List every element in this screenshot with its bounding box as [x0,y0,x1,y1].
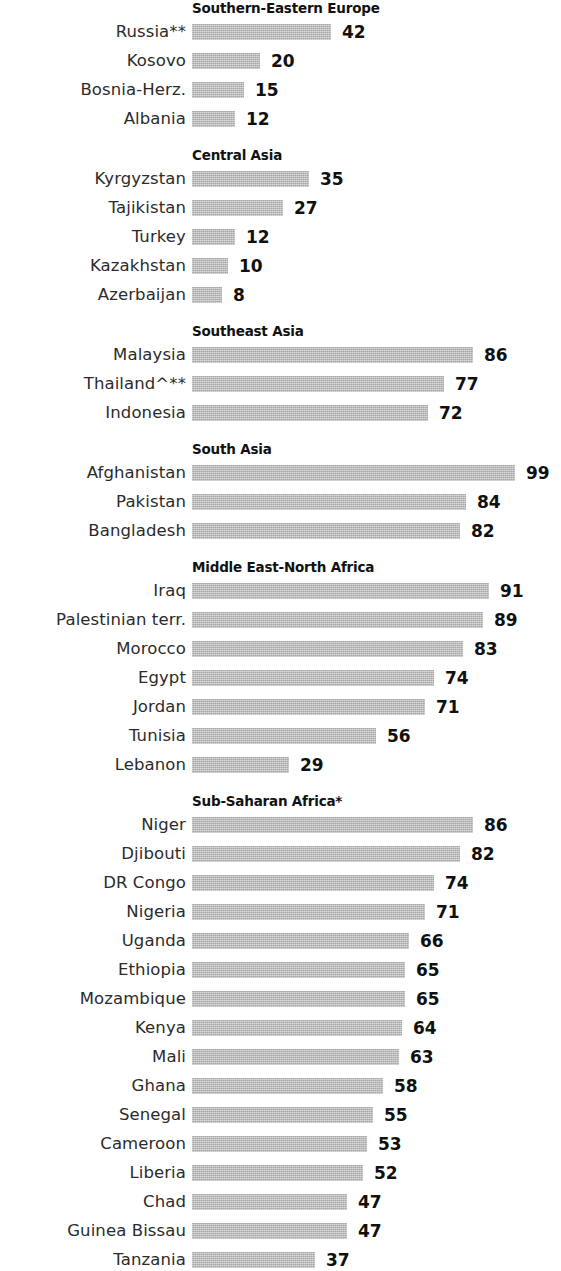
bar [192,757,289,773]
bar-track [192,405,428,421]
row-label: Kenya [0,1017,186,1039]
bar-track [192,1194,347,1210]
chart-row: Afghanistan99 [0,462,561,484]
bar [192,991,405,1007]
row-label: Egypt [0,667,186,689]
chart-row: Bosnia-Herz.15 [0,79,561,101]
bar-value-label: 15 [255,79,279,101]
row-label: Malaysia [0,344,186,366]
chart-row: Kazakhstan10 [0,255,561,277]
bar-track [192,641,463,657]
bar-track [192,875,434,891]
bar [192,933,409,949]
bar-track [192,229,235,245]
row-label: Indonesia [0,402,186,424]
bar [192,376,444,392]
chart-row: Ethiopia65 [0,959,561,981]
bar-value-label: 86 [484,344,508,366]
row-label: DR Congo [0,872,186,894]
row-label: Tanzania [0,1249,186,1271]
row-label: Djibouti [0,843,186,865]
bar-value-label: 86 [484,814,508,836]
bar-value-label: 89 [494,609,518,631]
row-label: Bangladesh [0,520,186,542]
chart-row: Tanzania37 [0,1249,561,1271]
chart-row: Egypt74 [0,667,561,689]
chart-row: Mali63 [0,1046,561,1068]
bar [192,465,515,481]
bar [192,904,425,920]
chart-row: Djibouti82 [0,843,561,865]
bar [192,347,473,363]
bar-track [192,583,489,599]
chart-row: Kenya64 [0,1017,561,1039]
row-label: Mali [0,1046,186,1068]
chart-row: Bangladesh82 [0,520,561,542]
bar-track [192,347,473,363]
bar-track [192,24,331,40]
row-label: Ghana [0,1075,186,1097]
bar [192,171,309,187]
row-label: Tunisia [0,725,186,747]
bar-track [192,757,289,773]
chart-row: Uganda66 [0,930,561,952]
bar [192,1078,383,1094]
bar-value-label: 58 [394,1075,418,1097]
bar [192,494,466,510]
chart-row: Kosovo20 [0,50,561,72]
row-label: Uganda [0,930,186,952]
bar [192,405,428,421]
bar-value-label: 84 [477,491,501,513]
bar-track [192,1049,399,1065]
bar-value-label: 47 [358,1220,382,1242]
bar-value-label: 37 [326,1249,350,1271]
bar-track [192,962,405,978]
chart-row: Kyrgyzstan35 [0,168,561,190]
bar-track [192,1107,373,1123]
bar-value-label: 10 [239,255,263,277]
bar-value-label: 56 [387,725,411,747]
bar-track [192,523,460,539]
bar-track [192,904,425,920]
bar-value-label: 12 [246,226,270,248]
chart-row: Mozambique65 [0,988,561,1010]
bar-track [192,728,376,744]
chart-row: Ghana58 [0,1075,561,1097]
group-header: Sub-Saharan Africa* [192,793,342,809]
bar-value-label: 27 [294,197,318,219]
bar-value-label: 12 [246,108,270,130]
chart-row: Malaysia86 [0,344,561,366]
row-label: Guinea Bissau [0,1220,186,1242]
row-label: Ethiopia [0,959,186,981]
chart-row: Liberia52 [0,1162,561,1184]
bar [192,583,489,599]
bar-track [192,200,283,216]
chart-row: Cameroon53 [0,1133,561,1155]
bar-value-label: 64 [413,1017,437,1039]
chart-row: Turkey12 [0,226,561,248]
row-label: Bosnia-Herz. [0,79,186,101]
group-header: Middle East-North Africa [192,559,374,575]
bar [192,1136,367,1152]
bar-track [192,699,425,715]
bar-value-label: 66 [420,930,444,952]
bar-value-label: 42 [342,21,366,43]
bar-value-label: 47 [358,1191,382,1213]
bar-value-label: 74 [445,872,469,894]
bar-value-label: 65 [416,959,440,981]
row-label: Albania [0,108,186,130]
bar [192,1223,347,1239]
row-label: Iraq [0,580,186,602]
row-label: Turkey [0,226,186,248]
row-label: Lebanon [0,754,186,776]
bar-track [192,171,309,187]
chart-row: Tajikistan27 [0,197,561,219]
chart-row: Guinea Bissau47 [0,1220,561,1242]
bar-track [192,258,228,274]
row-label: Russia** [0,21,186,43]
bar-track [192,1020,402,1036]
bar-track [192,991,405,1007]
row-label: Cameroon [0,1133,186,1155]
bar-track [192,494,466,510]
bar [192,523,460,539]
